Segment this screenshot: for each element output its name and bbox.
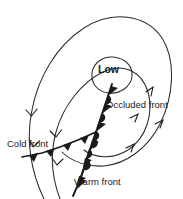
low-pressure-label: Low	[98, 64, 119, 75]
cold-front-label: Cold front	[7, 139, 48, 149]
warm-front-label: Warm front	[74, 177, 121, 187]
chevron-arrow-icon	[130, 114, 138, 122]
occluded-front-label: Occluded front	[106, 100, 168, 110]
weather-front-diagram: Low Occluded front Cold front Warm front	[0, 0, 183, 199]
chevron-arrow-icon	[52, 158, 63, 165]
